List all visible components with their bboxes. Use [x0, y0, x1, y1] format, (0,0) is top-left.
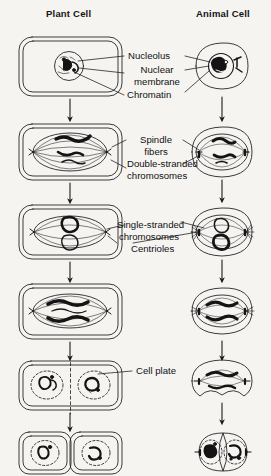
- animal-stage-telophase-cleavage: [192, 360, 252, 396]
- animal-stage-early-anaphase: [191, 208, 254, 256]
- label-cell-plate: Cell plate: [136, 365, 176, 377]
- animal-stage-metaphase: [192, 127, 252, 177]
- label-spindle-fibers-line2: fibers: [130, 146, 182, 158]
- label-nuclear-membrane-line1: Nuclear: [129, 64, 185, 76]
- label-centrioles: Centrioles: [131, 243, 174, 255]
- animal-stage-interphase: [196, 43, 248, 89]
- plant-stage-early-anaphase: [19, 205, 122, 259]
- leader-lines: [74, 56, 210, 374]
- label-single-stranded-line1: Single-stranded: [117, 219, 184, 231]
- plant-stage-daughter-cells: [19, 432, 122, 474]
- animal-stage-daughter-cells: [195, 433, 251, 471]
- label-spindle-fibers-line1: Spindle: [130, 134, 182, 146]
- label-chromatin: Chromatin: [127, 89, 171, 101]
- plant-stage-late-anaphase: [19, 284, 122, 339]
- label-double-stranded-line2: chromosomes: [127, 170, 183, 182]
- label-double-stranded-line1: Double-stranded: [127, 158, 198, 170]
- label-nucleolus: Nucleolus: [128, 50, 170, 62]
- label-nuclear-membrane-line2: membrane: [124, 76, 190, 88]
- plant-stage-telophase-cell-plate: [19, 357, 122, 414]
- plant-stage-metaphase: [19, 124, 122, 180]
- animal-stage-late-anaphase: [191, 288, 254, 334]
- mitosis-diagram: Plant Cell Animal Cell: [0, 0, 271, 476]
- label-single-stranded-line2: chromosomes: [117, 231, 181, 243]
